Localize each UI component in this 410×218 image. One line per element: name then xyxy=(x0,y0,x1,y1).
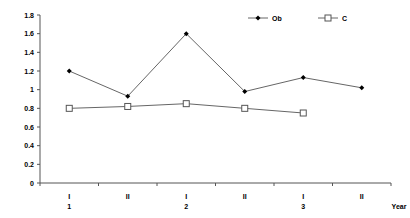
y-tick-label: 1.4 xyxy=(24,49,34,56)
y-tick-label: 0.2 xyxy=(24,161,34,168)
legend: ObC xyxy=(248,15,347,22)
y-tick-label: 1.8 xyxy=(24,12,34,19)
legend-item-c: C xyxy=(318,15,347,22)
series-ob xyxy=(67,31,365,99)
y-tick-label: 0.6 xyxy=(24,124,34,131)
year-label: 1 xyxy=(67,203,71,210)
series-c xyxy=(66,101,306,116)
x-tick-label: I xyxy=(68,193,70,200)
data-point xyxy=(183,101,189,107)
x-tick-label: II xyxy=(243,193,247,200)
data-point xyxy=(66,105,72,111)
x-tick-label: II xyxy=(360,193,364,200)
y-tick-label: 0 xyxy=(30,180,34,187)
line-chart: 00.20.40.60.811.21.41.61.8IIIIIIIII123Ye… xyxy=(0,0,410,218)
series-group xyxy=(66,31,364,116)
y-tick-label: 1.6 xyxy=(24,30,34,37)
x-tick-label: II xyxy=(126,193,130,200)
data-point xyxy=(242,105,248,111)
legend-marker xyxy=(325,15,331,21)
y-tick-label: 0.8 xyxy=(24,105,34,112)
data-point xyxy=(301,75,306,80)
year-label: 2 xyxy=(184,203,188,210)
legend-marker xyxy=(256,16,261,21)
y-tick-label: 1 xyxy=(30,86,34,93)
legend-label: C xyxy=(342,15,347,22)
data-point xyxy=(67,69,72,74)
y-tick-label: 0.4 xyxy=(24,142,34,149)
data-point xyxy=(125,103,131,109)
legend-item-ob: Ob xyxy=(248,15,282,22)
x-tick-label: I xyxy=(185,193,187,200)
x-tick-label: I xyxy=(302,193,304,200)
legend-label: Ob xyxy=(272,15,282,22)
data-point xyxy=(300,110,306,116)
axes: 00.20.40.60.811.21.41.61.8IIIIIIIII123Ye… xyxy=(24,12,406,211)
y-tick-label: 1.2 xyxy=(24,68,34,75)
x-axis-title: Year xyxy=(392,203,407,210)
series-line xyxy=(69,34,362,97)
data-point xyxy=(359,85,364,90)
year-label: 3 xyxy=(301,203,305,210)
